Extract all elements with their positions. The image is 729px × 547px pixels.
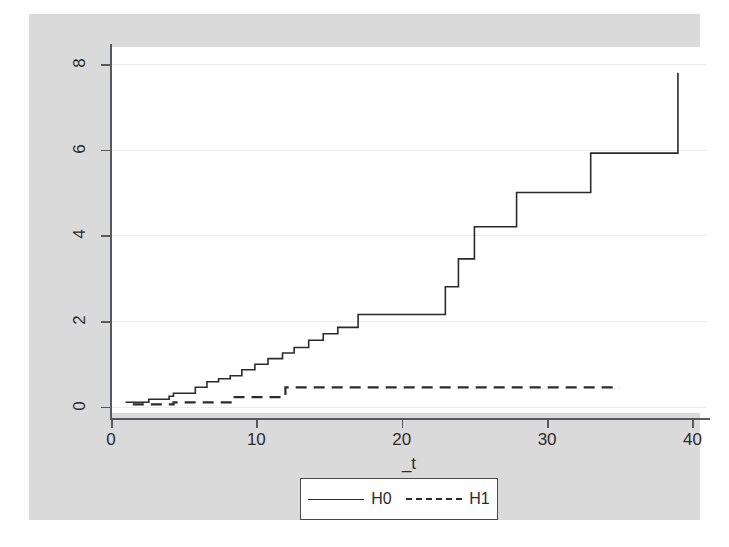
x-tick-label-10: 10 <box>236 430 276 450</box>
y-tick-0 <box>101 407 110 409</box>
x-tick-label-40: 40 <box>672 430 712 450</box>
y-tick-8 <box>101 64 110 66</box>
x-tick-0 <box>111 419 113 428</box>
legend-key-solid-icon <box>308 499 364 500</box>
chart-screenshot: 02468 010203040 _t H0 H1 <box>0 0 729 547</box>
y-tick-label-0: 0 <box>70 393 90 419</box>
y-tick-label-8: 8 <box>70 50 90 76</box>
y-tick-label-2: 2 <box>70 307 90 333</box>
y-axis-line <box>110 44 112 419</box>
x-axis-line <box>110 418 710 420</box>
series-line-h0 <box>126 73 678 403</box>
x-tick-10 <box>256 419 258 428</box>
x-tick-label-20: 20 <box>382 430 422 450</box>
legend-key-dashed-icon <box>406 498 462 500</box>
y-tick-label-4: 4 <box>70 221 90 247</box>
legend-label-h0: H0 <box>371 490 391 508</box>
x-tick-20 <box>402 419 404 428</box>
x-tick-label-0: 0 <box>91 430 131 450</box>
y-tick-4 <box>101 235 110 237</box>
x-tick-30 <box>547 419 549 428</box>
y-tick-label-6: 6 <box>70 136 90 162</box>
legend: H0 H1 <box>300 478 498 520</box>
x-tick-40 <box>692 419 694 428</box>
x-axis-title: _t <box>111 454 707 474</box>
x-tick-label-30: 30 <box>527 430 567 450</box>
legend-entry-h1[interactable]: H1 <box>406 490 489 508</box>
series-line-h1 <box>133 387 620 404</box>
legend-label-h1: H1 <box>469 490 489 508</box>
series-layer <box>111 47 707 413</box>
y-tick-2 <box>101 321 110 323</box>
plot-area <box>111 47 707 413</box>
legend-entry-h0[interactable]: H0 <box>308 490 391 508</box>
y-tick-6 <box>101 150 110 152</box>
graph-region: 02468 010203040 _t H0 H1 <box>29 14 700 520</box>
